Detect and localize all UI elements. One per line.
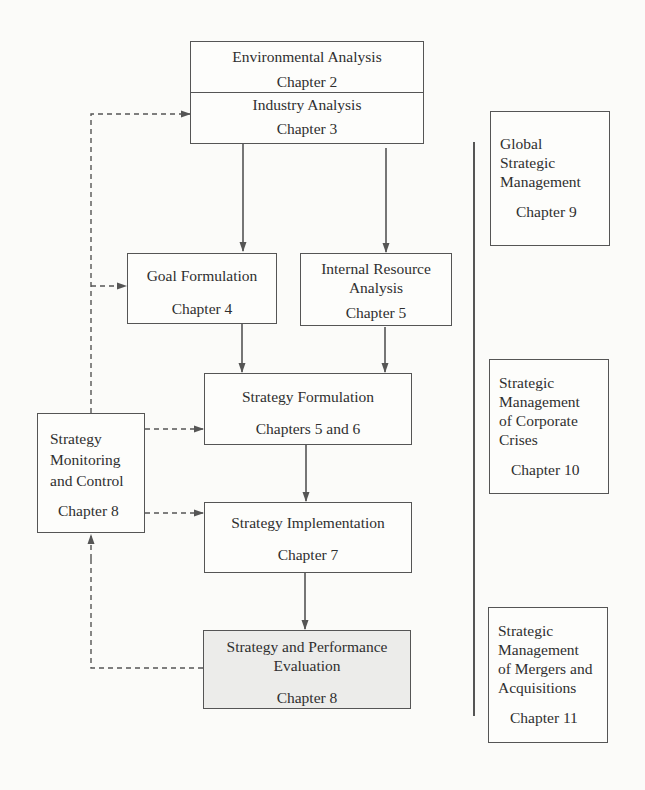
- strategy-formulation-title: Strategy Formulation: [205, 387, 411, 406]
- industry-analysis-box: Industry Analysis Chapter 3: [190, 92, 424, 144]
- strategy-evaluation-title-line2: Evaluation: [204, 656, 410, 675]
- mergers-line2: Management: [498, 640, 607, 659]
- goal-formulation-title: Goal Formulation: [128, 266, 276, 285]
- internal-resource-analysis-box: Internal Resource Analysis Chapter 5: [300, 253, 452, 326]
- strategy-implementation-box: Strategy Implementation Chapter 7: [204, 502, 412, 573]
- strategy-monitoring-title-line2: Monitoring: [50, 449, 144, 470]
- global-strategic-management-box: Global Strategic Management Chapter 9: [490, 111, 610, 246]
- industry-analysis-chapter: Chapter 3: [191, 119, 423, 138]
- mergers-acquisitions-box: Strategic Management of Mergers and Acqu…: [488, 607, 608, 743]
- strategy-evaluation-chapter: Chapter 8: [204, 688, 410, 707]
- environmental-analysis-chapter: Chapter 2: [191, 72, 423, 91]
- global-chapter: Chapter 9: [500, 202, 609, 221]
- strategic-management-diagram: Environmental Analysis Chapter 2 Industr…: [0, 0, 645, 790]
- crises-line3: of Corporate: [499, 411, 608, 430]
- strategy-monitoring-title-line3: and Control: [50, 470, 144, 491]
- goal-formulation-chapter: Chapter 4: [128, 299, 276, 318]
- strategy-implementation-title: Strategy Implementation: [205, 513, 411, 532]
- internal-resource-title-line2: Analysis: [301, 278, 451, 297]
- mergers-line1: Strategic: [498, 621, 607, 640]
- mergers-line3: of Mergers and: [498, 659, 607, 678]
- global-line1: Global: [500, 134, 609, 153]
- strategy-formulation-chapter: Chapters 5 and 6: [205, 419, 411, 438]
- internal-resource-chapter: Chapter 5: [301, 303, 451, 322]
- dashed-evaluation-to-left: [91, 559, 203, 668]
- strategy-monitoring-chapter: Chapter 8: [50, 501, 144, 520]
- environmental-analysis-title: Environmental Analysis: [191, 47, 423, 66]
- strategy-evaluation-title-line1: Strategy and Performance: [204, 637, 410, 656]
- strategy-evaluation-box: Strategy and Performance Evaluation Chap…: [203, 630, 411, 709]
- crises-chapter: Chapter 10: [499, 460, 608, 479]
- industry-analysis-title: Industry Analysis: [191, 95, 423, 114]
- dashed-arrows: [91, 114, 203, 668]
- strategy-monitoring-title-line1: Strategy: [50, 428, 144, 449]
- crises-line1: Strategic: [499, 373, 608, 392]
- environmental-analysis-box: Environmental Analysis Chapter 2: [190, 41, 424, 93]
- strategy-formulation-box: Strategy Formulation Chapters 5 and 6: [204, 373, 412, 445]
- mergers-line4: Acquisitions: [498, 678, 607, 697]
- mergers-chapter: Chapter 11: [498, 708, 607, 727]
- goal-formulation-box: Goal Formulation Chapter 4: [127, 253, 277, 324]
- vertical-divider: [473, 142, 475, 716]
- crises-line4: Crises: [499, 430, 608, 449]
- global-line2: Strategic: [500, 153, 609, 172]
- strategy-monitoring-box: Strategy Monitoring and Control Chapter …: [37, 413, 145, 533]
- corporate-crises-box: Strategic Management of Corporate Crises…: [489, 359, 609, 494]
- strategy-implementation-chapter: Chapter 7: [205, 545, 411, 564]
- internal-resource-title-line1: Internal Resource: [301, 259, 451, 278]
- crises-line2: Management: [499, 392, 608, 411]
- global-line3: Management: [500, 172, 609, 191]
